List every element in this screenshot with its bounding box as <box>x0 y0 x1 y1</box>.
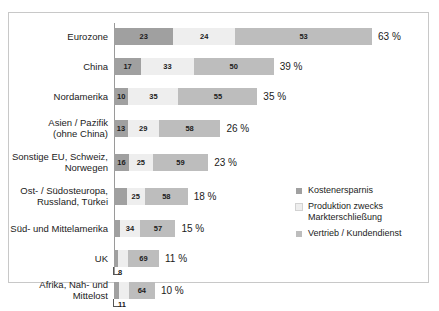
bar-segment: 25 <box>119 282 129 299</box>
legend-swatch-icon <box>295 187 303 195</box>
category-label: UK <box>9 253 112 264</box>
row-total-label: 35 % <box>263 91 286 102</box>
stacked-bar: 132958 <box>114 120 220 137</box>
stacked-bar: 232453 <box>114 28 372 45</box>
segment-value: 23 <box>139 32 147 41</box>
chart-row: Eurozone23245363 % <box>9 23 430 49</box>
bar-segment: 59 <box>153 154 209 171</box>
chart-legend: Kostenersparnis Produktion zwecks Markte… <box>295 185 425 244</box>
stacked-bar: 11112564 <box>114 282 155 299</box>
callout-value: 11 <box>118 300 126 309</box>
bar-segment: 55 <box>178 88 257 105</box>
category-label: China <box>9 61 112 72</box>
segment-value: 53 <box>299 32 307 41</box>
row-total-label: 23 % <box>214 157 237 168</box>
row-total-label: 39 % <box>280 61 303 72</box>
stacked-bar: 882369 <box>114 250 159 267</box>
chart-row: Asien / Pazifik (ohne China)13295826 % <box>9 113 430 143</box>
bar-segment: 57 <box>140 220 175 237</box>
bar-segment: 50 <box>194 58 274 75</box>
bar-area: 23245363 % <box>112 23 430 49</box>
legend-item-produktion: Produktion zwecks Markterschließung <box>295 201 425 223</box>
category-label: Asien / Pazifik (ohne China) <box>9 117 112 139</box>
bar-segment: 53 <box>235 28 372 45</box>
row-total-label: 63 % <box>378 31 401 42</box>
bar-segment: 16 <box>114 154 129 171</box>
bar-area: 16255923 % <box>112 147 430 177</box>
stacked-bar: 172558 <box>114 188 188 205</box>
bar-area: 88236911 % <box>112 245 430 271</box>
category-label: Süd- und Mittelamerika <box>9 223 112 234</box>
bar-segment: 33 <box>141 58 194 75</box>
segment-value: 69 <box>139 254 147 263</box>
segment-value: 16 <box>117 158 125 167</box>
segment-value: 57 <box>154 224 162 233</box>
legend-label: Vertrieb / Kundendienst <box>308 228 402 239</box>
bar-area: 10355535 % <box>112 83 430 109</box>
segment-value: 10 <box>117 92 125 101</box>
legend-item-kostenersparnis: Kostenersparnis <box>295 185 425 196</box>
segment-value: 55 <box>214 92 222 101</box>
bar-segment: 23 <box>114 28 173 45</box>
row-total-label: 10 % <box>161 285 184 296</box>
legend-swatch-icon <box>295 203 303 211</box>
category-label: Ost- / Südosteuropa, Russland, Türkei <box>9 185 112 207</box>
bar-segment: 34 <box>120 220 141 237</box>
category-label: Eurozone <box>9 31 112 42</box>
bar-segment: 17 <box>114 58 141 75</box>
bar-area: 13295826 % <box>112 113 430 143</box>
bar-segment: 13 <box>114 120 128 137</box>
bar-segment: 64 <box>129 282 155 299</box>
legend-item-vertrieb: Vertrieb / Kundendienst <box>295 228 425 239</box>
segment-value: 58 <box>185 124 193 133</box>
row-total-label: 18 % <box>194 191 217 202</box>
category-label: Sonstige EU, Schweiz, Norwegen <box>9 151 112 173</box>
segment-value: 35 <box>149 92 157 101</box>
legend-label: Kostenersparnis <box>308 185 373 196</box>
segment-value: 58 <box>162 192 170 201</box>
callout-leader-line <box>113 299 119 307</box>
bar-segment: 24 <box>173 28 235 45</box>
segment-value: 59 <box>176 158 184 167</box>
bar-rows: Eurozone23245363 %China17335039 %Nordame… <box>9 23 430 309</box>
row-total-label: 15 % <box>181 223 204 234</box>
bar-area: 17335039 % <box>112 53 430 79</box>
callout-leader-line <box>113 267 119 275</box>
bar-segment: 23 <box>118 250 128 267</box>
segment-value: 50 <box>230 62 238 71</box>
segment-value: 13 <box>117 124 125 133</box>
segment-value: 64 <box>138 286 146 295</box>
segment-callout: 11 <box>113 299 131 311</box>
row-total-label: 11 % <box>165 253 187 264</box>
segment-value: 29 <box>139 124 147 133</box>
legend-label: Produktion zwecks Markterschließung <box>308 201 383 223</box>
segment-value: 25 <box>132 192 140 201</box>
bar-area: 1111256410 % <box>112 275 430 305</box>
chart-row: China17335039 % <box>9 53 430 79</box>
chart-row: Afrika, Nah- und Mittelost1111256410 % <box>9 275 430 305</box>
chart-row: Nordamerika10355535 % <box>9 83 430 109</box>
segment-value: 25 <box>137 158 145 167</box>
stacked-bar: 93457 <box>114 220 175 237</box>
top-caption <box>0 0 439 9</box>
bar-segment: 29 <box>128 120 159 137</box>
bar-segment: 25 <box>129 154 153 171</box>
chart-row: UK88236911 % <box>9 245 430 271</box>
category-label: Nordamerika <box>9 91 112 102</box>
chart-row: Sonstige EU, Schweiz, Norwegen16255923 % <box>9 147 430 177</box>
segment-value: 24 <box>200 32 208 41</box>
bar-segment: 69 <box>128 250 159 267</box>
legend-swatch-icon <box>295 230 303 238</box>
category-label: Afrika, Nah- und Mittelost <box>9 279 112 301</box>
segment-value: 34 <box>126 224 134 233</box>
segment-value: 17 <box>123 62 131 71</box>
bar-segment: 58 <box>145 188 188 205</box>
chart-frame: Eurozone23245363 %China17335039 %Nordame… <box>8 12 429 283</box>
stacked-bar: 162559 <box>114 154 208 171</box>
stacked-bar: 173350 <box>114 58 274 75</box>
bar-segment: 25 <box>127 188 145 205</box>
bar-segment: 17 <box>114 188 127 205</box>
row-total-label: 26 % <box>226 123 249 134</box>
stacked-bar: 103555 <box>114 88 257 105</box>
